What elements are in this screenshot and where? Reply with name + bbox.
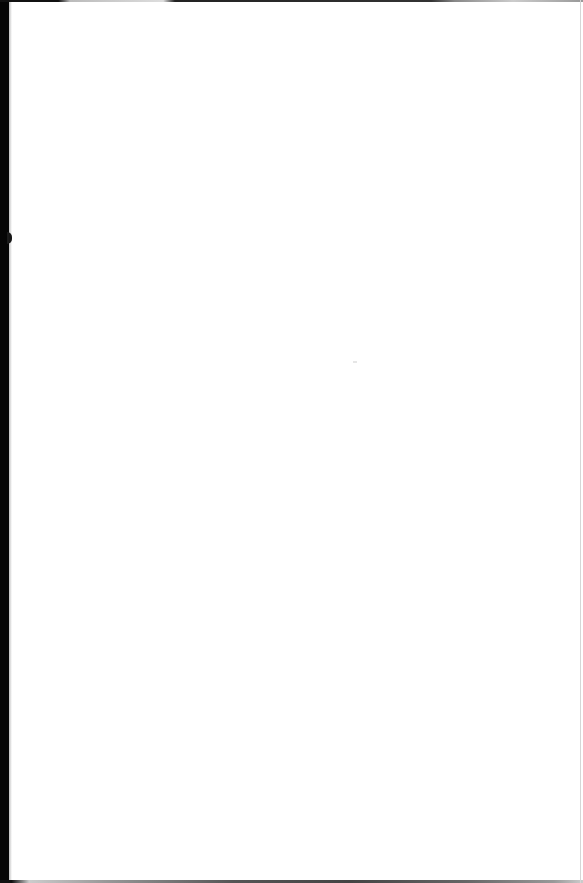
scan-binding-edge: [0, 0, 9, 883]
scan-right-edge: [580, 0, 581, 883]
blank-page-body: [12, 2, 580, 880]
